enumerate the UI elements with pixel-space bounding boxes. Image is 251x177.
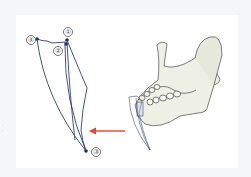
- label-4: ④: [26, 35, 36, 45]
- mandible-illustration: [135, 37, 222, 126]
- label-1: ①: [63, 27, 73, 37]
- arrow-icon: [89, 128, 125, 135]
- label-2: ②: [53, 46, 63, 56]
- label-3: ③: [91, 147, 101, 157]
- point-1: [65, 38, 69, 42]
- point-2: [64, 42, 68, 46]
- point-3: [84, 149, 88, 153]
- tooth-outline: [37, 39, 87, 151]
- diagram-canvas: [0, 0, 251, 177]
